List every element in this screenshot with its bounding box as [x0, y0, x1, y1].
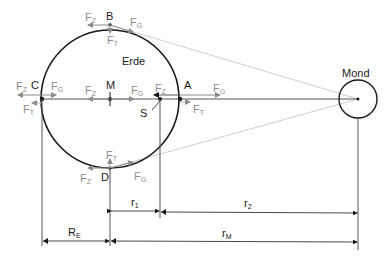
force-fz-m: FZ	[85, 85, 96, 99]
force-fg-m: FG	[131, 85, 143, 99]
moon-label: Mond	[342, 68, 370, 79]
dim-r1-label: r1	[131, 197, 139, 211]
force-fg-b: FG	[130, 17, 142, 31]
dim-rm-label: rM	[222, 228, 232, 242]
force-fg-c: FG	[51, 81, 63, 95]
force-fz-a: FZ	[155, 83, 166, 97]
point-b-label: B	[106, 11, 113, 22]
point-d-label: D	[101, 172, 109, 183]
tangent-line-top	[110, 25, 358, 99]
force-ft-d: FT	[106, 150, 117, 164]
point-m-label: M	[106, 80, 115, 91]
dim-re-label: RE	[68, 227, 81, 241]
force-fg-a: FG	[213, 83, 225, 97]
force-ft-c: FT	[23, 104, 34, 118]
diagram-graphics	[0, 0, 391, 262]
earth-moon-tidal-diagram: Erde Mond B C M A S D FZ FG FT FZ FG FT …	[0, 0, 391, 262]
force-ft-a: FT	[193, 104, 204, 118]
force-fz-d: FZ	[80, 173, 91, 187]
earth-label: Erde	[122, 56, 145, 67]
force-fz-c: FZ	[16, 81, 27, 95]
force-ft-b: FT	[107, 35, 118, 49]
point-a-label: A	[184, 80, 191, 91]
dim-r2-label: r2	[244, 198, 252, 212]
point-a	[178, 97, 182, 101]
force-fz-b: FZ	[85, 12, 96, 26]
force-fg-d: FG	[134, 171, 146, 185]
point-s-label: S	[140, 108, 147, 119]
point-c-label: C	[31, 80, 39, 91]
